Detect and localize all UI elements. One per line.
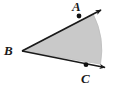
shaded-sector (22, 14, 102, 64)
angle-figure-svg (0, 0, 117, 87)
vertex-label-c: C (81, 72, 90, 85)
point-c (84, 62, 89, 67)
vertex-label-b: B (4, 44, 13, 57)
point-a (77, 14, 82, 19)
vertex-label-a: A (72, 0, 81, 13)
geometry-diagram: A B C (0, 0, 117, 87)
